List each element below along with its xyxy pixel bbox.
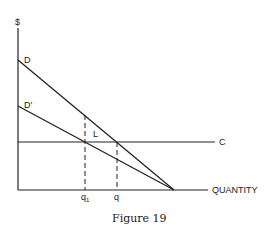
tick-q: q	[114, 192, 119, 202]
figure-caption: Figure 19	[112, 212, 167, 225]
demand-curve-d-prime	[18, 106, 174, 190]
tick-q1: q1	[81, 192, 90, 203]
figure-19-diagram: $ D D' L C QUANTITY q1 q Figure 19	[0, 0, 278, 227]
label-c: C	[219, 137, 226, 147]
label-l: L	[93, 129, 98, 139]
demand-curve-d	[18, 60, 174, 190]
x-axis-label: QUANTITY	[212, 185, 258, 195]
label-d-prime: D'	[24, 100, 32, 110]
label-d: D	[24, 55, 31, 65]
y-axis-label: $	[15, 17, 20, 27]
